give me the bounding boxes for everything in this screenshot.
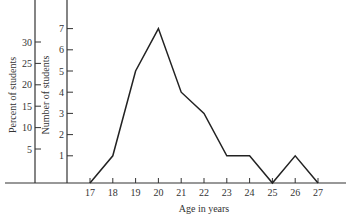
percent-y-ticks: 51015202530 bbox=[22, 37, 41, 155]
y-tick-label: 7 bbox=[59, 23, 64, 34]
x-axis-title: Age in years bbox=[179, 203, 230, 214]
data-line bbox=[90, 29, 318, 183]
x-tick-label: 19 bbox=[131, 187, 141, 198]
x-tick-label: 20 bbox=[153, 187, 163, 198]
x-ticks: 1718192021222324252627 bbox=[85, 178, 323, 198]
y-tick-label: 1 bbox=[59, 150, 64, 161]
percent-y-axis-title: Percent of students bbox=[7, 57, 18, 133]
y2-tick-label: 10 bbox=[22, 122, 32, 133]
y2-tick-label: 20 bbox=[22, 79, 32, 90]
x-tick-label: 22 bbox=[199, 187, 209, 198]
count-y-ticks: 1234567 bbox=[59, 23, 73, 161]
y-tick-label: 2 bbox=[59, 129, 64, 140]
x-tick-label: 23 bbox=[222, 187, 232, 198]
x-tick-label: 18 bbox=[108, 187, 118, 198]
y-tick-label: 6 bbox=[59, 44, 64, 55]
frequency-polygon-chart: 1234567 51015202530 17181920212223242526… bbox=[0, 0, 346, 217]
x-tick-label: 17 bbox=[85, 187, 95, 198]
y-tick-label: 5 bbox=[59, 66, 64, 77]
y2-tick-label: 15 bbox=[22, 101, 32, 112]
x-tick-label: 24 bbox=[245, 187, 255, 198]
x-tick-label: 21 bbox=[176, 187, 186, 198]
y2-tick-label: 30 bbox=[22, 37, 32, 48]
y-tick-label: 4 bbox=[59, 87, 64, 98]
y2-tick-label: 25 bbox=[22, 58, 32, 69]
x-tick-label: 27 bbox=[313, 187, 323, 198]
y-tick-label: 3 bbox=[59, 108, 64, 119]
count-y-axis-title: Number of students bbox=[40, 55, 51, 134]
y2-tick-label: 5 bbox=[27, 144, 32, 155]
x-tick-label: 25 bbox=[267, 187, 277, 198]
x-tick-label: 26 bbox=[290, 187, 300, 198]
